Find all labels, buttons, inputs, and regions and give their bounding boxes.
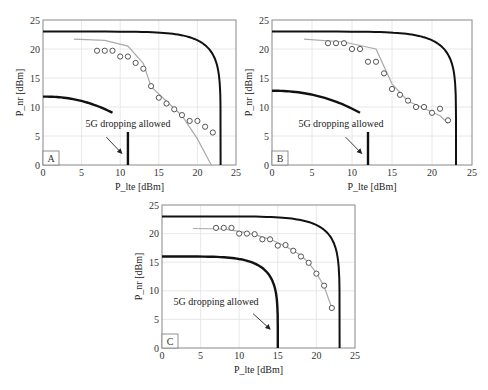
y-tick-label: 20	[30, 44, 40, 55]
x-tick-label: 20	[427, 167, 437, 178]
measured-data-point	[213, 225, 218, 230]
measured-data-point	[325, 41, 330, 46]
measured-data-point	[357, 46, 362, 51]
measured-data-point	[267, 237, 272, 242]
x-tick-label: 10	[347, 167, 357, 178]
measured-data-point	[349, 46, 354, 51]
x-tick-label: 15	[387, 167, 397, 178]
measured-data-point	[210, 130, 215, 135]
y-tick-label: 5	[264, 131, 269, 142]
panel-label: A	[47, 153, 55, 164]
annotation-arrow	[253, 314, 270, 329]
dropping-annotation: 5G dropping allowed	[298, 118, 383, 129]
measured-data-point	[341, 41, 346, 46]
x-tick-label: 0	[160, 350, 165, 361]
x-axis-label: P_lte [dBm]	[115, 181, 164, 192]
measured-data-point	[179, 113, 184, 118]
y-tick-label: 15	[30, 73, 40, 84]
measured-data-point	[102, 48, 107, 53]
chart-panel-c: 05101520250510152025P_lte [dBm]P_nr [dBm…	[133, 200, 360, 376]
x-tick-label: 15	[154, 167, 164, 178]
measured-data-point	[229, 225, 234, 230]
x-tick-label: 5	[310, 167, 315, 178]
model-fit-line	[74, 39, 211, 165]
inner-boundary-curve	[43, 97, 113, 113]
measured-data-point	[195, 118, 200, 123]
measured-data-point	[333, 41, 338, 46]
dropping-annotation: 5G dropping allowed	[174, 296, 259, 307]
measured-data-point	[298, 254, 303, 259]
chart-panel-b: 05101520250510152025P_lte [dBm]P_nr [dBm…	[243, 15, 477, 193]
y-tick-label: 5	[154, 314, 159, 325]
measured-data-point	[283, 242, 288, 247]
measured-data-point	[221, 225, 226, 230]
x-tick-label: 0	[41, 167, 46, 178]
x-tick-label: 25	[231, 167, 241, 178]
x-tick-label: 15	[273, 350, 283, 361]
measured-data-point	[445, 118, 450, 123]
x-tick-label: 5	[198, 350, 203, 361]
y-tick-label: 25	[30, 15, 40, 26]
x-axis-label: P_lte [dBm]	[347, 181, 396, 192]
measured-data-point	[237, 231, 242, 236]
measured-data-point	[260, 237, 265, 242]
y-tick-label: 0	[264, 160, 269, 171]
measured-data-point	[329, 305, 334, 310]
measured-data-point	[373, 59, 378, 64]
measured-data-point	[118, 54, 123, 59]
measured-data-point	[133, 60, 138, 65]
plot-frame	[43, 20, 236, 165]
measured-data-point	[397, 92, 402, 97]
x-tick-label: 25	[350, 350, 360, 361]
annotation-arrow	[106, 137, 121, 153]
outer-boundary-curve	[162, 216, 340, 348]
plot-frame	[162, 205, 355, 348]
y-tick-label: 5	[35, 131, 40, 142]
measured-data-point	[437, 106, 442, 111]
measured-data-point	[306, 260, 311, 265]
measured-data-point	[314, 271, 319, 276]
y-tick-label: 20	[259, 44, 269, 55]
measured-data-point	[172, 107, 177, 112]
measured-data-point	[389, 86, 394, 91]
x-tick-label: 20	[311, 350, 321, 361]
x-tick-label: 10	[234, 350, 244, 361]
measured-data-point	[381, 71, 386, 76]
x-tick-label: 0	[270, 167, 275, 178]
panel-label: B	[277, 153, 284, 164]
measured-data-point	[164, 101, 169, 106]
measured-data-point	[421, 104, 426, 109]
measured-data-point	[413, 104, 418, 109]
y-axis-label: P_nr [dBm]	[133, 253, 144, 301]
y-tick-label: 15	[149, 257, 159, 268]
y-tick-label: 25	[149, 200, 159, 211]
panel-label: C	[167, 336, 174, 347]
inner-boundary-curve	[272, 91, 360, 113]
y-tick-label: 20	[149, 228, 159, 239]
y-tick-label: 10	[149, 285, 159, 296]
measured-data-point	[125, 54, 130, 59]
measured-data-point	[365, 59, 370, 64]
measured-data-point	[244, 231, 249, 236]
measured-data-point	[203, 124, 208, 129]
outer-boundary-curve	[272, 32, 456, 165]
model-fit-line	[304, 39, 448, 123]
x-tick-label: 10	[115, 167, 125, 178]
measured-data-point	[141, 66, 146, 71]
x-tick-label: 25	[467, 167, 477, 178]
y-tick-label: 25	[259, 15, 269, 26]
chart-panel-a: 05101520250510152025P_lte [dBm]P_nr [dBm…	[14, 15, 241, 193]
measured-data-point	[110, 48, 115, 53]
measured-data-point	[291, 248, 296, 253]
dropping-annotation: 5G dropping allowed	[85, 118, 170, 129]
y-tick-label: 0	[35, 160, 40, 171]
y-tick-label: 15	[259, 73, 269, 84]
measured-data-point	[252, 232, 257, 237]
y-tick-label: 0	[154, 343, 159, 354]
measured-data-point	[275, 243, 280, 248]
measured-data-point	[148, 84, 153, 89]
x-axis-label: P_lte [dBm]	[234, 364, 283, 375]
measured-data-point	[156, 95, 161, 100]
measured-data-point	[322, 283, 327, 288]
figure-canvas: 05101520250510152025P_lte [dBm]P_nr [dBm…	[0, 0, 488, 390]
